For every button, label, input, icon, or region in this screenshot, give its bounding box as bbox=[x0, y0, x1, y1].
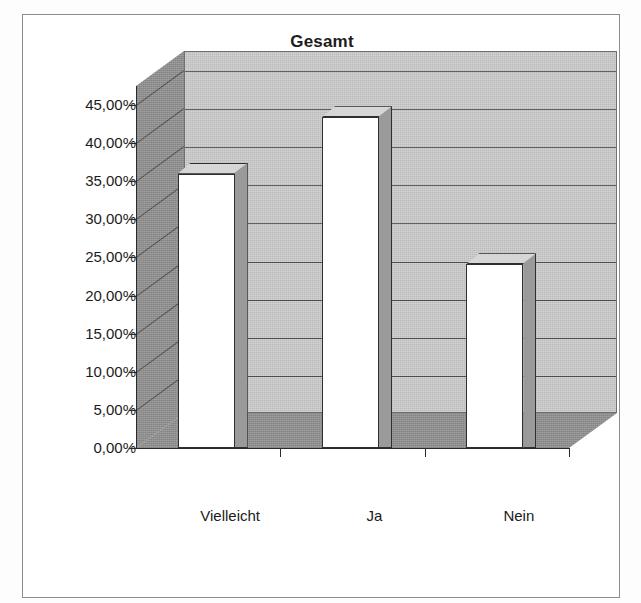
gridline bbox=[185, 147, 616, 148]
y-axis-tick-label: 15,00% bbox=[54, 325, 136, 342]
x-axis-tick-label: Vielleicht bbox=[200, 507, 260, 524]
side-wall-gridline bbox=[136, 108, 185, 144]
back-wall bbox=[184, 51, 617, 413]
side-wall-gridline bbox=[136, 70, 185, 106]
gridline bbox=[185, 376, 616, 377]
bar-nein[interactable] bbox=[466, 253, 523, 448]
bar-side-face bbox=[379, 106, 392, 448]
page-title: Gesamt bbox=[23, 32, 621, 52]
y-axis-tick-mark bbox=[129, 296, 136, 297]
y-axis-tick-mark bbox=[129, 410, 136, 411]
bar-side-face bbox=[523, 253, 536, 448]
y-axis-tick-label: 10,00% bbox=[54, 363, 136, 380]
gridline bbox=[185, 185, 616, 186]
chart-frame-border: Gesamt 0,00%5,00%10,00%15,00%20,00%25,00… bbox=[22, 14, 620, 598]
y-axis-tick-mark bbox=[129, 257, 136, 258]
y-axis-tick-mark bbox=[129, 372, 136, 373]
y-axis-tick-mark bbox=[129, 143, 136, 144]
gridline bbox=[185, 109, 616, 110]
bar-front-face bbox=[322, 117, 379, 448]
bar-front-face bbox=[178, 174, 235, 448]
x-axis-tick-mark bbox=[569, 448, 570, 457]
bar-ja[interactable] bbox=[322, 106, 379, 448]
y-axis-tick-mark bbox=[129, 219, 136, 220]
y-axis-tick-mark bbox=[129, 448, 136, 449]
y-axis-tick-label: 20,00% bbox=[54, 287, 136, 304]
x-axis-category-labels: VielleichtJaNein bbox=[136, 507, 626, 533]
x-axis-tick-label: Nein bbox=[503, 507, 534, 524]
y-axis-tick-label: 0,00% bbox=[54, 439, 136, 456]
bar-front-face bbox=[466, 264, 523, 448]
x-axis-tick-mark bbox=[280, 448, 281, 457]
y-axis-tick-mark bbox=[129, 181, 136, 182]
gridline bbox=[185, 223, 616, 224]
y-axis-tick-mark bbox=[129, 334, 136, 335]
x-axis-tick-mark bbox=[425, 448, 426, 457]
y-axis-tick-label: 5,00% bbox=[54, 401, 136, 418]
gridline bbox=[185, 300, 616, 301]
y-axis-tick-label: 25,00% bbox=[54, 248, 136, 265]
gridline bbox=[185, 338, 616, 339]
y-axis-tick-label: 35,00% bbox=[54, 172, 136, 189]
gridline bbox=[185, 262, 616, 263]
bar-side-face bbox=[235, 163, 248, 448]
y-axis-tick-label: 45,00% bbox=[54, 96, 136, 113]
y-axis-tick-mark bbox=[129, 105, 136, 106]
gridline bbox=[185, 71, 616, 72]
y-axis-tick-label: 30,00% bbox=[54, 210, 136, 227]
y-axis-line bbox=[136, 86, 137, 448]
bar-vielleicht[interactable] bbox=[178, 163, 235, 448]
plot-area-3d bbox=[136, 51, 621, 501]
x-axis-tick-label: Ja bbox=[367, 507, 383, 524]
y-axis-tick-label: 40,00% bbox=[54, 134, 136, 151]
chart-figure: Gesamt 0,00%5,00%10,00%15,00%20,00%25,00… bbox=[0, 0, 641, 603]
x-axis-line bbox=[136, 448, 569, 449]
y-axis-tick-labels: 0,00%5,00%10,00%15,00%20,00%25,00%30,00%… bbox=[41, 51, 136, 451]
